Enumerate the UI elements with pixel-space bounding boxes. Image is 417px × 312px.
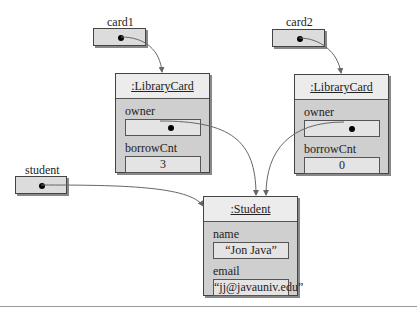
owner1-to-student-arrow (160, 121, 256, 195)
card1-to-librarycard-arrow (121, 37, 162, 72)
card2-to-librarycard-arrow (299, 38, 341, 73)
bottom-divider (0, 306, 417, 307)
student-to-student-object-arrow (41, 185, 203, 206)
owner2-to-student-arrow (266, 122, 344, 195)
reference-arrows (0, 0, 417, 312)
